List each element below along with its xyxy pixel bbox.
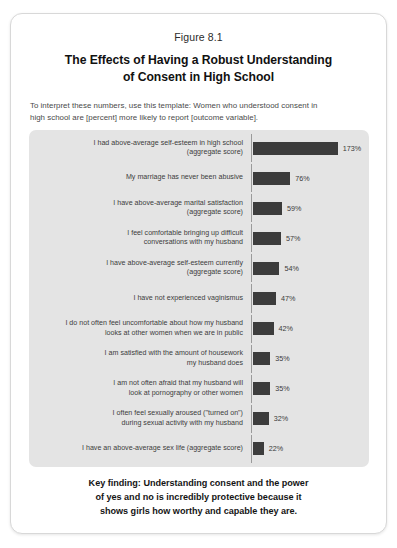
chart-bar-value: 59%: [287, 204, 301, 213]
chart-bar-value: 173%: [343, 144, 361, 153]
chart-row-label-line: I have above-average marital satisfactio…: [29, 199, 243, 209]
figure-number: Figure 8.1: [11, 31, 386, 43]
chart-row: I had above-average self-esteem in high …: [29, 133, 369, 163]
chart-row-label: I had above-average self-esteem in high …: [29, 139, 251, 158]
chart-row-label-line: I do not often feel uncomfortable about …: [29, 319, 243, 329]
chart-bar-value: 54%: [284, 264, 298, 273]
chart-row-label: I have above-average marital satisfactio…: [29, 199, 251, 218]
chart-row-label-line: I am satisfied with the amount of housew…: [29, 349, 243, 359]
chart-bar: [253, 442, 264, 455]
chart-row: I am satisfied with the amount of housew…: [29, 344, 369, 374]
chart-row-label: I do not often feel uncomfortable about …: [29, 319, 251, 338]
chart-bar-area: 22%: [252, 442, 369, 455]
chart-row-label: I have an above-average sex life (aggreg…: [29, 444, 251, 454]
chart-bar-area: 76%: [252, 172, 369, 185]
chart-bar-area: 59%: [252, 202, 369, 215]
chart-bar-area: 35%: [252, 382, 369, 395]
chart-row-label-line: I often feel sexually aroused ("turned o…: [29, 409, 243, 419]
chart-row-label-line: (aggregate score): [29, 268, 243, 278]
chart-bar-area: 42%: [252, 322, 369, 335]
chart-row-label-line: I have above-average self-esteem current…: [29, 259, 243, 269]
chart-bar-value: 76%: [295, 174, 309, 183]
figure-title: The Effects of Having a Robust Understan…: [11, 52, 386, 87]
chart-bar: [253, 202, 282, 215]
chart-row-label-line: I had above-average self-esteem in high …: [29, 139, 243, 149]
chart-row: I have an above-average sex life (aggreg…: [29, 434, 369, 464]
chart-row-label-line: I have an above-average sex life (aggreg…: [29, 444, 243, 454]
chart-bar: [253, 322, 274, 335]
chart-row-label-line: during sexual activity with my husband: [29, 419, 243, 429]
figure-title-line: The Effects of Having a Robust Understan…: [37, 52, 360, 69]
chart-row-label: I have not experienced vaginismus: [29, 294, 251, 304]
key-finding-line: Key finding: Understanding consent and t…: [38, 476, 359, 490]
chart-row: My marriage has never been abusive76%: [29, 163, 369, 193]
chart-row-label: My marriage has never been abusive: [29, 173, 251, 183]
figure-title-line: of Consent in High School: [37, 69, 360, 86]
chart-row-label-line: conversations with my husband: [29, 238, 243, 248]
chart-row-label: I have above-average self-esteem current…: [29, 259, 251, 278]
chart-bar: [253, 382, 270, 395]
chart-bar-value: 35%: [275, 354, 289, 363]
chart-bar-area: 32%: [252, 412, 369, 425]
chart-bar: [253, 262, 279, 275]
chart-row: I feel comfortable bringing up difficult…: [29, 223, 369, 253]
figure-intro-text: To interpret these numbers, use this tem…: [11, 100, 386, 126]
chart-row-label-line: (aggregate score): [29, 148, 243, 158]
chart-bar-area: 173%: [252, 142, 369, 155]
chart-bar-area: 57%: [252, 232, 369, 245]
chart-bar-area: 54%: [252, 262, 369, 275]
figure-intro-line: To interpret these numbers, use this tem…: [30, 100, 367, 113]
chart-row: I have not experienced vaginismus47%: [29, 283, 369, 313]
chart-row-label-line: (aggregate score): [29, 208, 243, 218]
chart-row-label-line: I am not often afraid that my husband wi…: [29, 379, 243, 389]
key-finding-line: shows girls how worthy and capable they …: [38, 504, 359, 518]
chart-bar-value: 42%: [279, 324, 293, 333]
chart-bar-value: 57%: [286, 234, 300, 243]
key-finding-text: Key finding: Understanding consent and t…: [11, 476, 386, 518]
chart-bar: [253, 352, 270, 365]
chart-row: I do not often feel uncomfortable about …: [29, 314, 369, 344]
chart-bar-value: 47%: [281, 294, 295, 303]
figure-card: Figure 8.1 The Effects of Having a Robus…: [10, 13, 387, 534]
chart-row-label-line: I have not experienced vaginismus: [29, 294, 243, 304]
chart-row-label: I often feel sexually aroused ("turned o…: [29, 409, 251, 428]
chart-bar: [253, 142, 338, 155]
chart-row-label-line: I feel comfortable bringing up difficult: [29, 229, 243, 239]
chart-row-label: I am not often afraid that my husband wi…: [29, 379, 251, 398]
chart-bar-value: 35%: [275, 384, 289, 393]
chart-bar-area: 47%: [252, 292, 369, 305]
bar-chart-rows: I had above-average self-esteem in high …: [29, 130, 369, 467]
chart-bar: [253, 292, 276, 305]
chart-bar: [253, 412, 269, 425]
chart-row: I am not often afraid that my husband wi…: [29, 374, 369, 404]
chart-row-label: I feel comfortable bringing up difficult…: [29, 229, 251, 248]
chart-bar: [253, 232, 281, 245]
figure-intro-line: high school are [percent] more likely to…: [30, 112, 367, 125]
bar-chart-panel: I had above-average self-esteem in high …: [29, 130, 369, 467]
chart-row-label-line: my husband does: [29, 359, 243, 369]
chart-row-label-line: My marriage has never been abusive: [29, 173, 243, 183]
chart-row-label-line: looks at other women when we are in publ…: [29, 329, 243, 339]
chart-bar-value: 32%: [274, 414, 288, 423]
chart-bar-value: 22%: [269, 444, 283, 453]
chart-bar: [253, 172, 290, 185]
key-finding-line: of yes and no is incredibly protective b…: [38, 490, 359, 504]
chart-row: I often feel sexually aroused ("turned o…: [29, 404, 369, 434]
chart-row-label-line: look at pornography or other women: [29, 389, 243, 399]
chart-row-label: I am satisfied with the amount of housew…: [29, 349, 251, 368]
chart-bar-area: 35%: [252, 352, 369, 365]
chart-row: I have above-average marital satisfactio…: [29, 193, 369, 223]
chart-row: I have above-average self-esteem current…: [29, 253, 369, 283]
